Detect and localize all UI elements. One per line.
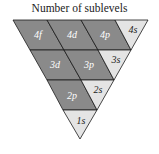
- sublevel-triangle: 4f 4d 4p 4s 3d 3p 3s 2p 2s 1s: [0, 0, 159, 154]
- label-3d: 3d: [49, 59, 61, 70]
- label-3p: 3p: [83, 59, 94, 70]
- label-2p: 2p: [67, 90, 77, 101]
- label-4s: 4s: [129, 24, 138, 35]
- label-4f: 4f: [34, 29, 43, 40]
- label-4d: 4d: [67, 29, 78, 40]
- label-1s: 1s: [77, 115, 86, 126]
- label-2s: 2s: [94, 84, 103, 95]
- label-3s: 3s: [111, 54, 121, 65]
- label-4p: 4p: [100, 29, 110, 40]
